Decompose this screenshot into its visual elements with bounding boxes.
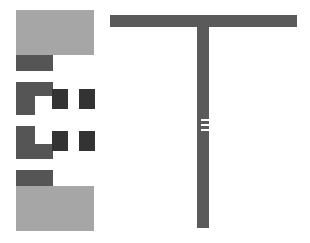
upper-c-top [16, 82, 53, 96]
lower-square-1 [52, 131, 68, 151]
lower-c-bottom [16, 144, 53, 159]
lower-square-2 [79, 131, 95, 151]
bottom-dark-bar [16, 170, 53, 186]
lower-c-left [16, 126, 35, 144]
upper-square-1 [52, 89, 68, 109]
t-stem-notch [201, 129, 209, 131]
top-light-block [16, 10, 94, 55]
upper-square-2 [79, 89, 95, 109]
t-stem [197, 27, 209, 228]
upper-c-left [16, 96, 35, 115]
top-dark-bar [16, 55, 53, 71]
bottom-light-block [16, 186, 94, 231]
t-top-bar [110, 15, 297, 27]
t-stem-notch [201, 124, 209, 126]
t-stem-notch [201, 119, 209, 121]
